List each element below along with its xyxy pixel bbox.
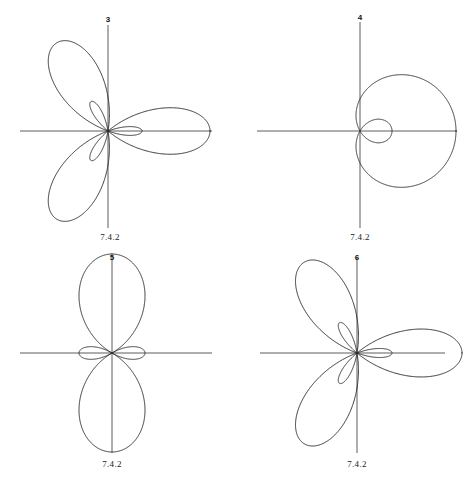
panel-caption-6: 7.4.2 — [235, 460, 470, 469]
panel-number-label-5: 5 — [0, 254, 224, 262]
panel-number-label-3: 3 — [0, 16, 216, 24]
plot-panel-6: 6 7.4.2 — [235, 241, 470, 481]
polar-plot-4 — [235, 0, 470, 240]
polar-plot-6 — [235, 241, 470, 481]
plot-panel-5: 5 7.4.2 — [0, 241, 235, 481]
polar-plot-3 — [0, 0, 235, 240]
panel-number-label-4: 4 — [235, 14, 470, 22]
polar-plot-5 — [0, 241, 235, 481]
panel-number-label-6: 6 — [235, 254, 470, 262]
plot-panel-3: 3 7.4.2 — [0, 0, 235, 240]
polar-curve-svg — [235, 0, 470, 240]
polar-curve-svg — [0, 0, 235, 240]
plot-panel-4: 4 7.4.2 — [235, 0, 470, 240]
figure-sheet: 3 7.4.2 4 7.4.2 5 7.4.2 6 7.4.2 — [0, 0, 470, 481]
polar-curve-svg — [235, 241, 470, 481]
polar-curve-svg — [0, 241, 235, 481]
panel-caption-5: 7.4.2 — [0, 460, 224, 469]
